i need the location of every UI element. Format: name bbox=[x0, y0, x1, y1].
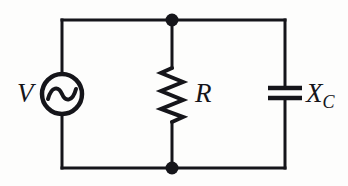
reactance-label: XC bbox=[306, 80, 335, 111]
ac-source-symbol bbox=[42, 74, 82, 114]
top-node-junction-dot bbox=[166, 14, 179, 27]
source-label: V bbox=[17, 80, 34, 107]
reactance-label-main: X bbox=[306, 78, 323, 108]
bottom-node-junction-dot bbox=[166, 162, 179, 175]
resistor-symbol bbox=[161, 68, 183, 122]
circuit-schematic bbox=[0, 0, 348, 186]
circuit-diagram-canvas: V R XC bbox=[0, 0, 348, 186]
capacitor-symbol bbox=[268, 88, 302, 98]
resistor-zigzag-icon bbox=[161, 68, 183, 122]
resistor-label: R bbox=[195, 80, 212, 107]
reactance-label-subscript: C bbox=[323, 92, 335, 112]
